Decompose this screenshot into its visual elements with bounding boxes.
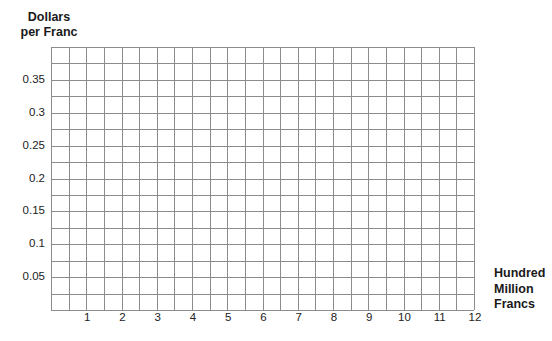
x-tick-label: 11 — [428, 311, 452, 323]
x-axis-title: Hundred Million Francs — [494, 266, 545, 313]
x-axis-title-line-3: Francs — [494, 297, 545, 313]
x-axis-title-line-2: Million — [494, 282, 545, 298]
x-tick-label: 6 — [252, 311, 276, 323]
plot-area — [0, 0, 552, 341]
x-tick-label: 8 — [322, 311, 346, 323]
y-tick-label: 0.2 — [5, 172, 45, 184]
y-tick-label: 0.35 — [5, 73, 45, 85]
y-tick-label: 0.15 — [5, 204, 45, 216]
x-tick-label: 9 — [357, 311, 381, 323]
x-tick-label: 5 — [216, 311, 240, 323]
y-tick-label: 0.25 — [5, 139, 45, 151]
x-tick-label: 4 — [181, 311, 205, 323]
x-tick-label: 7 — [287, 311, 311, 323]
x-tick-label: 1 — [75, 311, 99, 323]
y-tick-label: 0.3 — [5, 106, 45, 118]
y-tick-label: 0.05 — [5, 270, 45, 282]
x-tick-label: 12 — [463, 311, 487, 323]
x-tick-label: 10 — [393, 311, 417, 323]
x-axis-title-line-1: Hundred — [494, 266, 545, 282]
grid-lines — [51, 47, 475, 311]
x-tick-label: 3 — [146, 311, 170, 323]
y-tick-label: 0.1 — [5, 237, 45, 249]
x-tick-label: 2 — [111, 311, 135, 323]
